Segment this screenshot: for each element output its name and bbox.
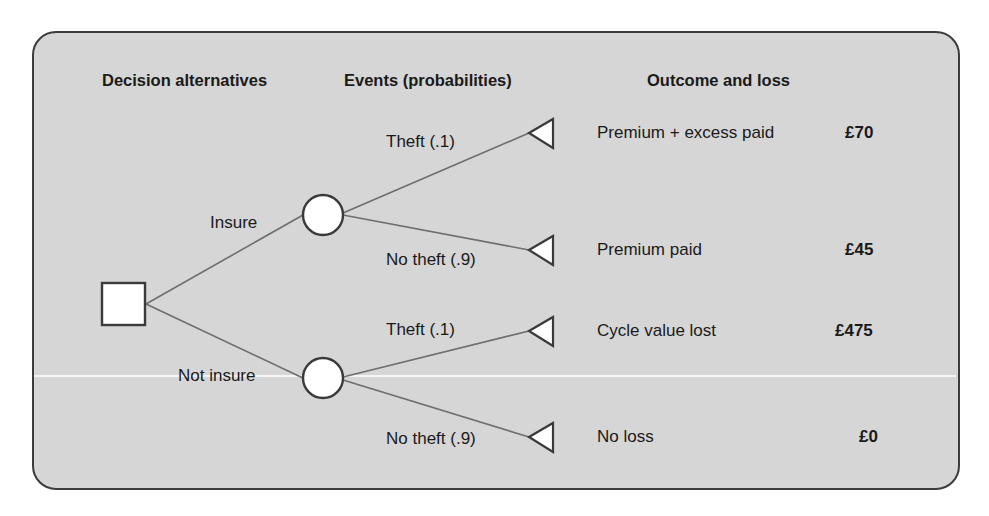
header-outcome-and-loss: Outcome and loss <box>647 70 790 90</box>
header-events: Events (probabilities) <box>344 70 512 90</box>
end-node-triangle-icon <box>529 236 553 265</box>
outcome-label: Cycle value lost <box>597 321 716 341</box>
event-label-not-insure-theft: Theft (.1) <box>386 320 455 340</box>
end-node-triangle-icon <box>529 317 553 346</box>
decision-label-not-insure: Not insure <box>178 366 255 386</box>
event-label-not-insure-no-theft: No theft (.9) <box>386 429 476 449</box>
outcome-label: No loss <box>597 427 654 447</box>
event-label-insure-no-theft: No theft (.9) <box>386 250 476 270</box>
outcome-loss-value: £0 <box>859 427 878 447</box>
event-label-insure-theft: Theft (.1) <box>386 132 455 152</box>
end-node-triangle-icon <box>529 423 553 452</box>
outcome-label: Premium paid <box>597 240 702 260</box>
outcome-loss-value: £475 <box>835 321 873 341</box>
decision-label-insure: Insure <box>210 213 257 233</box>
end-node-triangle-icon <box>529 119 553 148</box>
outcome-loss-value: £45 <box>845 240 873 260</box>
chance-node-not-insure-circle-icon <box>303 358 343 398</box>
outcome-loss-value: £70 <box>845 123 873 143</box>
outcome-label: Premium + excess paid <box>597 123 774 143</box>
decision-node-square-icon <box>102 283 145 325</box>
branch-insure-no-theft <box>343 215 529 250</box>
header-decision-alternatives: Decision alternatives <box>102 70 267 90</box>
chance-node-insure-circle-icon <box>303 195 343 235</box>
